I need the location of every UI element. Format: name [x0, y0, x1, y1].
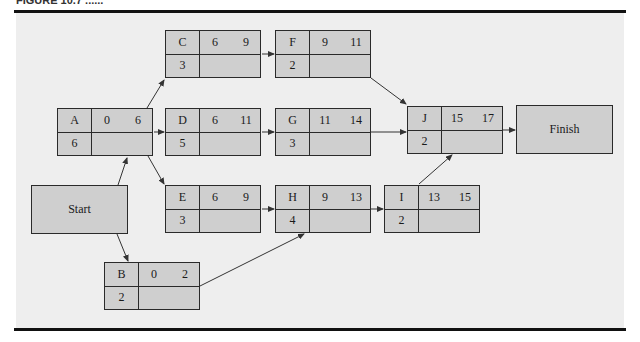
activity-node-i: I1315 2 [384, 185, 480, 233]
early-start: 13 [419, 186, 449, 209]
empty-cell [419, 209, 479, 232]
empty-cell [92, 132, 152, 155]
early-finish: 9 [230, 186, 262, 209]
empty-cell [310, 54, 370, 77]
early-finish: 13 [340, 186, 372, 209]
activity-name: E [166, 186, 200, 209]
empty-cell [139, 286, 199, 309]
duration: 2 [385, 209, 419, 232]
early-finish: 9 [230, 31, 262, 54]
finish-node: Finish [516, 105, 613, 154]
activity-node-f: F911 2 [275, 30, 371, 78]
activity-name: D [166, 109, 200, 132]
duration: 2 [408, 130, 442, 153]
activity-node-j: J1517 2 [407, 106, 503, 154]
early-start: 0 [92, 109, 122, 132]
duration: 5 [166, 132, 200, 155]
empty-cell [200, 132, 260, 155]
activity-name: J [408, 107, 442, 130]
activity-name: A [58, 109, 92, 132]
edge-i-j [419, 155, 452, 184]
activity-name: H [276, 186, 310, 209]
early-start: 15 [442, 107, 472, 130]
edge-b-h [200, 234, 304, 286]
activity-node-a: A06 6 [57, 108, 153, 156]
activity-node-c: C69 3 [165, 30, 261, 78]
edge-f-j [371, 78, 406, 104]
activity-node-h: H913 4 [275, 185, 371, 233]
early-finish: 6 [122, 109, 154, 132]
activity-name: I [385, 186, 419, 209]
duration: 2 [276, 54, 310, 77]
edge-a-e [148, 156, 164, 184]
duration: 3 [276, 132, 310, 155]
duration: 2 [105, 286, 139, 309]
activity-name: G [276, 109, 310, 132]
activity-name: B [105, 263, 139, 286]
early-finish: 11 [340, 31, 372, 54]
early-finish: 2 [169, 263, 201, 286]
duration: 3 [166, 209, 200, 232]
early-start: 9 [310, 31, 340, 54]
early-finish: 15 [449, 186, 481, 209]
early-finish: 17 [472, 107, 504, 130]
bottom-rule [14, 328, 626, 331]
early-start: 9 [310, 186, 340, 209]
activity-node-d: D611 5 [165, 108, 261, 156]
early-start: 6 [200, 31, 230, 54]
activity-name: F [276, 31, 310, 54]
early-finish: 11 [230, 109, 262, 132]
duration: 4 [276, 209, 310, 232]
duration: 6 [58, 132, 92, 155]
early-start: 6 [200, 109, 230, 132]
edge-a-c [147, 80, 164, 108]
empty-cell [310, 132, 370, 155]
activity-node-b: B02 2 [104, 262, 200, 310]
empty-cell [442, 130, 502, 153]
activity-node-g: G1114 3 [275, 108, 371, 156]
early-start: 0 [139, 263, 169, 286]
empty-cell [310, 209, 370, 232]
early-start: 11 [310, 109, 340, 132]
activity-name: C [166, 31, 200, 54]
early-finish: 14 [340, 109, 372, 132]
empty-cell [200, 209, 260, 232]
edge-start-b [117, 234, 128, 261]
activity-node-e: E69 3 [165, 185, 261, 233]
duration: 3 [166, 54, 200, 77]
edge-start-a [118, 158, 127, 185]
empty-cell [200, 54, 260, 77]
early-start: 6 [200, 186, 230, 209]
start-node: Start [31, 185, 128, 234]
